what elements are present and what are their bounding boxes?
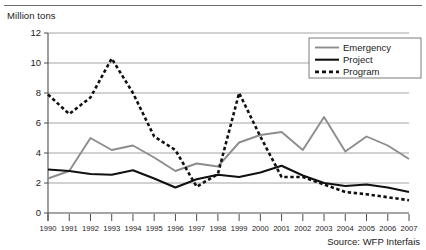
x-tick-label-1992: 1992 [82,224,99,233]
y-tick-label-2: 2 [36,177,41,188]
y-tick-label-12: 12 [30,27,41,38]
series-line-emergency [48,117,409,179]
x-tick-label-2000: 2000 [252,224,269,233]
x-tick-label-2006: 2006 [379,224,396,233]
chart-legend: EmergencyProjectProgram [309,38,421,78]
legend-label-program: Program [343,66,380,77]
source-attribution: Source: WFP Interfais [327,236,420,247]
x-tick-label-1993: 1993 [103,224,120,233]
legend-label-project: Project [343,54,373,65]
x-axis: 1990199119921993199419951996199719981999… [40,214,418,233]
chart-figure: Million tons 024681012 19901991199219931… [0,0,426,250]
legend-label-emergency: Emergency [343,42,391,53]
x-tick-label-2007: 2007 [401,224,418,233]
x-tick-label-1999: 1999 [231,224,248,233]
y-tick-label-8: 8 [36,87,41,98]
y-tick-label-6: 6 [36,117,41,128]
x-tick-label-2004: 2004 [337,224,354,233]
y-tick-label-0: 0 [36,207,41,218]
x-tick-label-1991: 1991 [61,224,78,233]
x-tick-label-1994: 1994 [124,224,141,233]
y-tick-label-4: 4 [36,147,41,158]
x-tick-label-1997: 1997 [188,224,205,233]
x-tick-label-1998: 1998 [209,224,226,233]
x-tick-label-1995: 1995 [146,224,163,233]
y-axis: 024681012 [30,27,48,221]
line-chart-plot: 024681012 199019911992199319941995199619… [0,0,426,250]
series-line-program [48,59,409,201]
data-series [48,59,409,201]
x-tick-label-2005: 2005 [358,224,375,233]
x-tick-label-1990: 1990 [40,224,57,233]
series-line-project [48,166,409,192]
x-tick-label-2001: 2001 [273,224,290,233]
x-tick-label-2002: 2002 [294,224,311,233]
y-tick-label-10: 10 [30,57,41,68]
x-tick-label-2003: 2003 [316,224,333,233]
x-tick-label-1996: 1996 [167,224,184,233]
